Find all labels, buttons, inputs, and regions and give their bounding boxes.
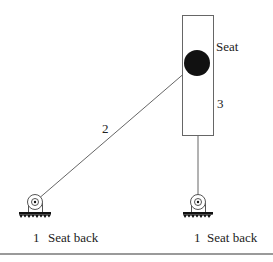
left-ground-number: 1 xyxy=(33,231,40,244)
seat-label: Seat xyxy=(216,40,238,53)
right-ground-pivot-icon xyxy=(183,195,213,219)
link-2-number: 2 xyxy=(102,122,109,135)
seat-joint-ball xyxy=(184,50,210,76)
right-ground-number: 1 xyxy=(194,231,201,244)
bottom-divider xyxy=(0,253,273,255)
left-ground-label: Seat back xyxy=(48,231,98,244)
right-ground-label: Seat back xyxy=(207,231,257,244)
link-3-number: 3 xyxy=(217,97,224,110)
link-2-rod xyxy=(37,71,187,200)
left-ground-pivot-icon xyxy=(19,195,51,219)
